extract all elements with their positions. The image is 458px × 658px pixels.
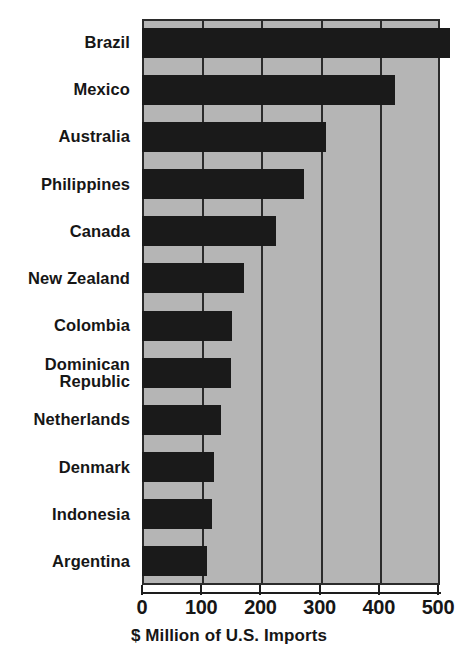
bar	[142, 169, 304, 199]
x-tick-label: 200	[230, 596, 290, 619]
bar	[142, 216, 276, 246]
x-tick-label: 0	[112, 596, 172, 619]
category-label: Australia	[58, 128, 130, 145]
x-tick-300	[319, 585, 321, 595]
category-label: Netherlands	[34, 411, 130, 428]
x-tick-200	[259, 585, 261, 595]
bar-chart-figure: BrazilMexicoAustraliaPhilippinesCanadaNe…	[0, 0, 458, 658]
bar	[142, 546, 207, 576]
x-tick-label: 100	[171, 596, 231, 619]
bar	[142, 28, 450, 58]
bar	[142, 452, 214, 482]
category-label: Colombia	[54, 317, 130, 334]
x-tick-0	[141, 585, 143, 595]
category-label: Denmark	[59, 459, 130, 476]
x-tick-500	[437, 585, 439, 595]
bar	[142, 263, 244, 293]
category-label: Dominican Republic	[45, 356, 130, 390]
category-label: Indonesia	[52, 506, 130, 523]
bar	[142, 405, 221, 435]
category-label: Philippines	[41, 176, 130, 193]
category-label: New Zealand	[28, 270, 130, 287]
category-label: Canada	[70, 223, 130, 240]
bar	[142, 358, 231, 388]
x-tick-label: 300	[290, 596, 350, 619]
bar	[142, 499, 212, 529]
x-axis-title: $ Million of U.S. Imports	[0, 626, 458, 646]
x-tick-400	[378, 585, 380, 595]
bar	[142, 311, 232, 341]
bars-layer	[142, 19, 458, 585]
category-label: Brazil	[84, 34, 130, 51]
category-axis: BrazilMexicoAustraliaPhilippinesCanadaNe…	[0, 19, 136, 585]
category-label: Argentina	[52, 553, 130, 570]
x-axis-line	[142, 592, 441, 594]
category-label: Mexico	[73, 81, 130, 98]
x-tick-label: 400	[349, 596, 409, 619]
bar	[142, 122, 326, 152]
bar	[142, 75, 395, 105]
x-tick-label: 500	[408, 596, 458, 619]
x-tick-100	[200, 585, 202, 595]
